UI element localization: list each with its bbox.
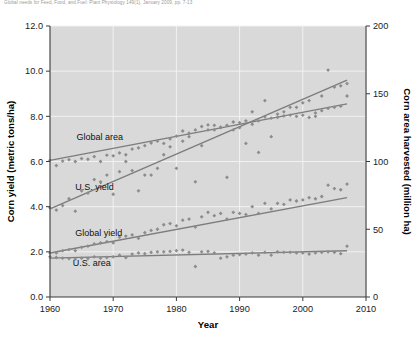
x-axis-tick-label: 1980 [166,304,186,314]
y-axis-left-tick-label: 10.0 [25,66,43,76]
y-axis-left-tick-label: 8.0 [30,112,43,122]
y-axis-left-tick-label: 4.0 [30,202,43,212]
y-axis-left-tick-label: 12.0 [25,21,43,31]
plot-area: Global areaU.S. yieldGlobal yieldU.S. ar… [5,21,413,330]
x-axis-tick-label: 1970 [103,304,123,314]
corn-yield-area-chart: Global areaU.S. yieldGlobal yieldU.S. ar… [0,0,417,340]
y-axis-left-tick-label: 2.0 [30,247,43,257]
y-axis-left-tick-label: 0.0 [30,292,43,302]
x-axis-tick-label: 1990 [229,304,249,314]
series-label-u-s-yield: U.S. yield [75,182,114,192]
x-axis-title: Year [198,319,219,330]
series-label-global-area: Global area [77,132,124,142]
x-axis-tick-label: 2010 [356,304,376,314]
y-axis-right-title: Corn area harvested (million ha) [402,88,413,235]
y-axis-left-tick-label: 6.0 [30,157,43,167]
x-axis-tick-label: 1960 [40,304,60,314]
series-label-global-yield: Global yield [75,228,122,238]
y-axis-right-tick-label: 50 [373,225,383,235]
y-axis-right-tick-label: 150 [373,89,388,99]
y-axis-left-title: Corn yield (metric tons/ha) [5,101,16,223]
x-axis-tick-label: 2000 [293,304,313,314]
y-axis-right-tick-label: 0 [373,292,378,302]
y-axis-right-tick-label: 200 [373,21,388,31]
y-axis-right-tick-label: 100 [373,157,388,167]
series-label-u-s-area: U.S. area [73,258,111,268]
